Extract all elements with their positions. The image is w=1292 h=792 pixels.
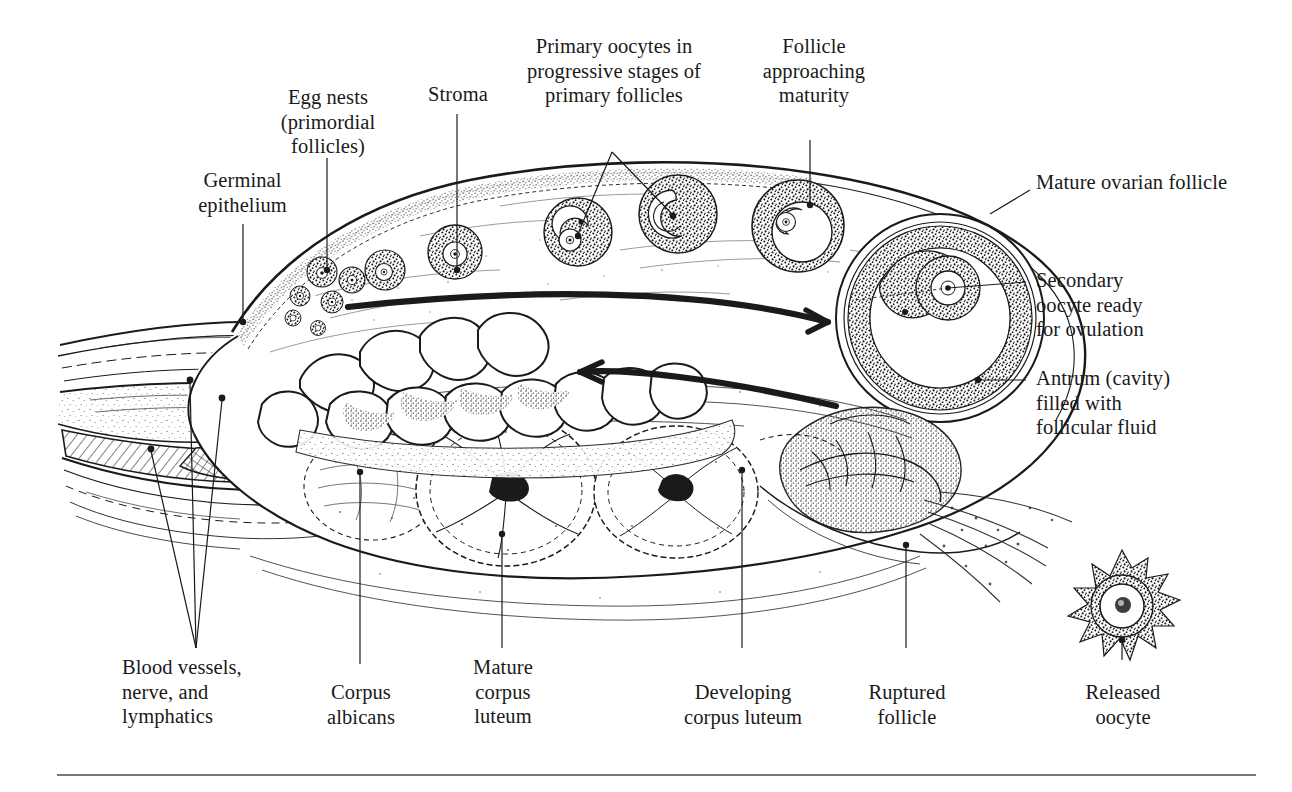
primary-follicle-4	[639, 175, 717, 253]
label-primary-oocytes: Primary oocytes in progressive stages of…	[490, 34, 738, 108]
label-developing-corpus-luteum: Developing corpus luteum	[648, 680, 838, 729]
label-blood-vessels: Blood vessels, nerve, and lymphatics	[122, 655, 312, 729]
label-ruptured-follicle: Ruptured follicle	[836, 680, 978, 729]
mature-corpus-luteum-point	[499, 531, 505, 537]
released-oocyte	[1068, 550, 1180, 660]
label-germinal-epithelium: Germinal epithelium	[150, 168, 335, 217]
label-antrum: Antrum (cavity) filled with follicular f…	[1036, 366, 1246, 440]
label-mature-corpus-luteum: Mature corpus luteum	[434, 655, 572, 729]
ruptured-follicle-point	[903, 542, 909, 548]
ovary-figure: Germinal epithelium Egg nests (primordia…	[0, 0, 1292, 792]
label-released-oocyte: Released oocyte	[1050, 680, 1196, 729]
label-mature-ovarian-follicle: Mature ovarian follicle	[1036, 170, 1286, 195]
corpus-albicans-point	[357, 469, 363, 475]
primary-follicle-1	[365, 250, 405, 290]
primary-follicle-3	[544, 198, 612, 266]
developing-corpus-luteum-point	[739, 467, 745, 473]
follicle-approaching-maturity	[752, 180, 844, 272]
mature-ovarian-follicle	[836, 214, 1044, 422]
label-corpus-albicans: Corpus albicans	[290, 680, 432, 729]
label-secondary-oocyte: Secondary oocyte ready for ovulation	[1036, 268, 1236, 342]
label-follicle-approaching-maturity: Follicle approaching maturity	[740, 34, 888, 108]
